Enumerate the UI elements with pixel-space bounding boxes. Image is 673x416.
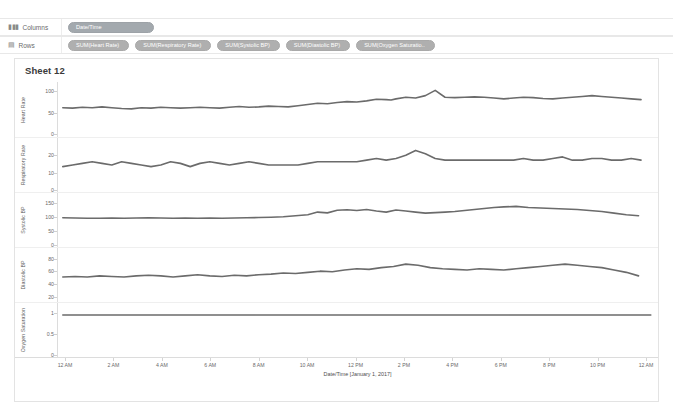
- y-axis-tick-mark: [54, 155, 57, 156]
- columns-shelf-dropzone[interactable]: Date/Time: [62, 19, 673, 35]
- data-line: [63, 206, 639, 218]
- y-axis-tick-label: 100: [45, 214, 54, 220]
- series-plot-area: [58, 303, 658, 357]
- x-axis: Date/Time [January 1, 2017] 12 AM2 AM4 A…: [15, 357, 658, 384]
- x-axis-tick-label: 8 PM: [543, 362, 555, 368]
- chart-pane: Heart Rate050100: [15, 82, 658, 137]
- chart-panes: Heart Rate050100Respiratory Rate01020Sys…: [15, 82, 658, 357]
- y-axis-ticks: 20406080: [31, 248, 58, 302]
- x-axis-tick-label: 4 AM: [156, 362, 168, 368]
- y-axis-tick-label: 150: [45, 200, 54, 206]
- x-axis-tick-mark: [113, 358, 114, 361]
- x-axis-tick-mark: [259, 358, 260, 361]
- y-axis-tick-label: 0.5: [47, 331, 54, 337]
- x-axis-tick-label: 10 PM: [590, 362, 605, 368]
- y-axis-tick-mark: [54, 113, 57, 114]
- x-axis-tick-label: 6 AM: [204, 362, 216, 368]
- pill-sum-heart-rate[interactable]: SUM(Heart Rate): [68, 40, 129, 51]
- x-axis-tick-mark: [356, 358, 357, 361]
- columns-shelf-label: ▮▮▮ Columns: [0, 19, 62, 35]
- y-axis-title: Diastolic BP: [15, 248, 31, 302]
- chart-pane: Systolic BP050100150: [15, 192, 658, 247]
- columns-icon: ▮▮▮: [8, 24, 19, 31]
- pill-sum-oxygen-saturation[interactable]: SUM(Oxygen Saturatio..: [356, 40, 435, 51]
- y-axis-tick-mark: [54, 134, 57, 135]
- data-line: [63, 150, 641, 166]
- columns-label-text: Columns: [23, 24, 49, 31]
- x-axis-tick-label: 4 PM: [446, 362, 458, 368]
- x-axis-tick-mark: [162, 358, 163, 361]
- pill-sum-diastolic-bp[interactable]: SUM(Diastolic BP): [286, 40, 350, 51]
- y-axis-tick-mark: [54, 203, 57, 204]
- x-axis-tick-label: 12 AM: [58, 362, 73, 368]
- y-axis-title: Systolic BP: [15, 193, 31, 247]
- x-axis-title: Date/Time [January 1, 2017]: [324, 371, 392, 377]
- y-axis-tick-mark: [54, 334, 57, 335]
- series-plot-area: [58, 138, 658, 192]
- y-axis-tick-mark: [54, 91, 57, 92]
- y-axis-tick-mark: [54, 297, 57, 298]
- y-axis-ticks: 00.51: [31, 303, 58, 357]
- x-axis-tick-mark: [646, 358, 647, 361]
- y-axis-title-text: Respiratory Rate: [20, 145, 26, 186]
- y-axis-ticks: 01020: [31, 138, 58, 192]
- x-axis-tick-mark: [501, 358, 502, 361]
- y-axis-tick-label: 100: [45, 88, 54, 94]
- x-axis-tick-mark: [549, 358, 550, 361]
- chart-pane: Oxygen Saturation00.51: [15, 302, 658, 357]
- page-title: Sheet 12: [15, 59, 658, 80]
- pill-sum-respiratory-rate[interactable]: SUM(Respiratory Rate): [135, 40, 211, 51]
- x-axis-tick-label: 2 PM: [398, 362, 410, 368]
- y-axis-title-text: Systolic BP: [20, 206, 26, 233]
- y-axis-title-text: Heart Rate: [20, 96, 26, 122]
- chart-pane: Respiratory Rate01020: [15, 137, 658, 192]
- x-axis-tick-mark: [210, 358, 211, 361]
- y-axis-tick-mark: [54, 231, 57, 232]
- y-axis-tick-mark: [54, 245, 57, 246]
- y-axis-tick-mark: [54, 217, 57, 218]
- worksheet-canvas: Sheet 12 Heart Rate050100Respiratory Rat…: [14, 58, 659, 402]
- series-plot-area: [58, 248, 658, 302]
- x-axis-tick-label: 12 PM: [348, 362, 363, 368]
- pill-date-time[interactable]: Date/Time: [68, 22, 154, 33]
- rows-label-text: Rows: [19, 42, 35, 49]
- x-axis-tick-label: 10 AM: [300, 362, 315, 368]
- y-axis-tick-mark: [54, 355, 57, 356]
- y-axis-title: Heart Rate: [15, 82, 31, 137]
- x-axis-tick-mark: [452, 358, 453, 361]
- x-axis-tick-mark: [65, 358, 66, 361]
- shelf-area: ▮▮▮ Columns Date/Time ▤ Rows SUM(Heart R…: [0, 18, 673, 54]
- data-line: [63, 90, 641, 108]
- x-axis-tick-label: 6 PM: [495, 362, 507, 368]
- x-axis-tick-label: 2 AM: [107, 362, 119, 368]
- chart-pane: Diastolic BP20406080: [15, 247, 658, 302]
- x-axis-tick-mark: [404, 358, 405, 361]
- y-axis-tick-mark: [54, 271, 57, 272]
- x-axis-spacer: [15, 358, 57, 384]
- rows-shelf-dropzone[interactable]: SUM(Heart Rate) SUM(Respiratory Rate) SU…: [62, 37, 673, 53]
- y-axis-title-text: Oxygen Saturation: [20, 308, 26, 353]
- x-axis-tick-label: 12 AM: [639, 362, 654, 368]
- columns-shelf[interactable]: ▮▮▮ Columns Date/Time: [0, 18, 673, 36]
- y-axis-title: Oxygen Saturation: [15, 303, 31, 357]
- y-axis-tick-mark: [54, 190, 57, 191]
- x-axis-tick-label: 8 AM: [253, 362, 265, 368]
- y-axis-title: Respiratory Rate: [15, 138, 31, 192]
- y-axis-title-text: Diastolic BP: [20, 260, 26, 289]
- x-axis-tick-mark: [307, 358, 308, 361]
- y-axis-tick-mark: [54, 259, 57, 260]
- data-line: [63, 264, 639, 277]
- y-axis-ticks: 050100: [31, 82, 58, 137]
- rows-icon: ▤: [8, 42, 15, 49]
- x-axis-tick-mark: [598, 358, 599, 361]
- y-axis-ticks: 050100150: [31, 193, 58, 247]
- y-axis-tick-mark: [54, 313, 57, 314]
- rows-shelf-label: ▤ Rows: [0, 37, 62, 53]
- rows-shelf[interactable]: ▤ Rows SUM(Heart Rate) SUM(Respiratory R…: [0, 36, 673, 54]
- pill-sum-systolic-bp[interactable]: SUM(Systolic BP): [217, 40, 279, 51]
- y-axis-tick-mark: [54, 284, 57, 285]
- series-plot-area: [58, 82, 658, 137]
- x-axis-ticks: Date/Time [January 1, 2017] 12 AM2 AM4 A…: [57, 358, 658, 384]
- y-axis-tick-mark: [54, 173, 57, 174]
- series-plot-area: [58, 193, 658, 247]
